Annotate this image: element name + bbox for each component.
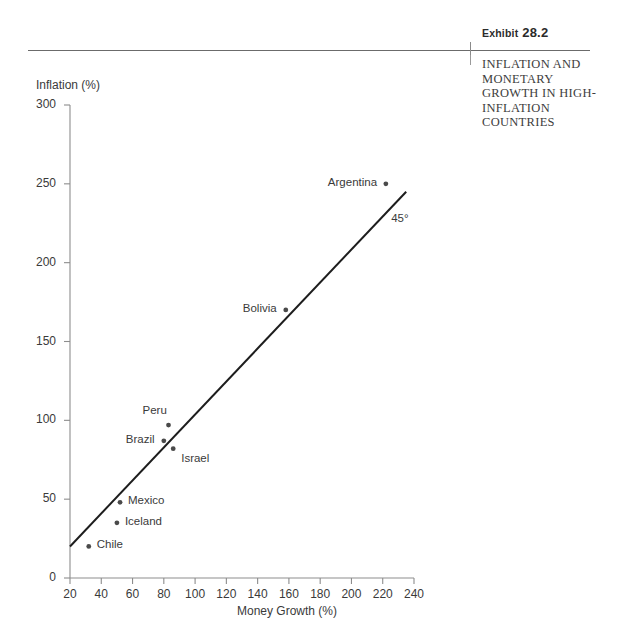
data-point (118, 500, 123, 505)
reference-line-45deg (70, 192, 406, 547)
y-tick-label: 300 (14, 97, 56, 111)
x-tick-label: 240 (394, 587, 434, 601)
data-point-label: Bolivia (243, 302, 277, 314)
y-tick-label: 200 (14, 255, 56, 269)
y-tick-label: 250 (14, 176, 56, 190)
data-point-label: Peru (143, 404, 167, 416)
data-point-label: Chile (97, 538, 123, 550)
reference-line-label: 45° (391, 212, 408, 224)
data-point (166, 423, 171, 428)
data-point (115, 520, 120, 525)
data-point (161, 438, 166, 443)
y-tick-label: 50 (14, 491, 56, 505)
data-point-label: Brazil (126, 433, 155, 445)
data-point (383, 181, 388, 186)
data-point (283, 308, 288, 313)
data-point-label: Mexico (128, 494, 164, 506)
data-point (86, 544, 91, 549)
data-point-label: Iceland (125, 515, 162, 527)
scatter-plot (0, 0, 618, 641)
exhibit-page: Exhibit 28.2 INFLATION AND MONETARY GROW… (0, 0, 618, 641)
data-point-label: Argentina (328, 176, 377, 188)
y-tick-label: 0 (14, 570, 56, 584)
data-point-label: Israel (181, 452, 209, 464)
y-tick-label: 100 (14, 412, 56, 426)
data-point (171, 446, 176, 451)
y-tick-label: 150 (14, 334, 56, 348)
reference-line-segment (70, 192, 406, 547)
